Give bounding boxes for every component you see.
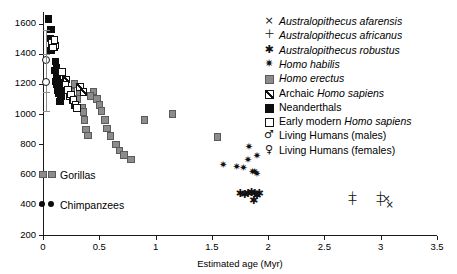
x-tick-label: 2.5: [306, 242, 342, 252]
legend-label-plain: Living Humans (males): [279, 129, 386, 141]
x-tick-label: 2: [250, 242, 286, 252]
legend-item-label: Early modern Homo sapiens: [279, 114, 411, 128]
data-point-homo-habilis: ✷: [216, 160, 230, 170]
legend-item-label: Australopithecus afarensis: [279, 14, 402, 28]
x-tick-label: 0: [25, 242, 61, 252]
y-tick-label: 1200: [3, 78, 36, 88]
data-point-robustus: ✱: [247, 195, 261, 206]
data-point-archaic-sapiens: [80, 88, 88, 96]
x-tick-label: 3: [363, 242, 399, 252]
hatched-square-icon: [265, 90, 274, 99]
open-square-icon: [262, 114, 276, 128]
x-tick-label: 3.5: [419, 242, 455, 252]
legend-label-taxon: Australopithecus afarensis: [279, 15, 402, 27]
data-point-homo-erectus: [101, 116, 109, 124]
legend-item-label: Homo erectus: [279, 71, 344, 85]
x-tick: [381, 236, 382, 240]
legend-label-plain: Living Humans (females): [279, 144, 395, 156]
x-tick-label: 1: [138, 242, 174, 252]
male-symbol-icon: ♂: [262, 128, 276, 142]
data-point-living-human: [42, 78, 50, 86]
legend-item-label: Living Humans (males): [279, 128, 386, 142]
gray-square-icon: [262, 71, 276, 85]
y-tick: [39, 24, 43, 25]
data-point-homo-erectus: [39, 171, 47, 179]
y-tick-label: 200: [3, 230, 36, 240]
asterisk-icon: ✱: [262, 43, 276, 57]
hatched-square-icon: [262, 86, 276, 100]
x-tick: [99, 236, 100, 240]
data-point-homo-erectus: [107, 132, 115, 140]
data-point-homo-habilis: ✷: [230, 162, 244, 172]
data-point-chimpanzee: [39, 201, 45, 207]
y-tick-label: 1000: [3, 109, 36, 119]
filled-star-square-icon: ✷: [262, 57, 276, 71]
x-axis-title: Estimated age (Myr): [150, 258, 330, 269]
y-tick: [39, 144, 43, 145]
data-point-homo-erectus: [127, 156, 135, 164]
cross-x-icon: ×: [262, 14, 276, 28]
data-point-homo-erectus: [141, 116, 149, 124]
black-square-icon: [262, 100, 276, 114]
x-tick: [268, 236, 269, 240]
plus-icon: ＋: [262, 28, 276, 42]
data-point-homo-erectus: [84, 132, 92, 140]
data-point-early-modern-sapiens: [58, 68, 66, 76]
data-point-africanus: ＋: [374, 197, 388, 208]
cranial-capacity-scatter-chart: 200400600800100012001400160000.511.522.5…: [0, 0, 457, 274]
error-bar-cap: [43, 54, 50, 55]
black-circle-icon: [48, 201, 54, 207]
error-bar-cap: [43, 111, 50, 112]
x-tick-label: 1.5: [194, 242, 230, 252]
x-tick: [437, 236, 438, 240]
legend-item-label: Living Humans (females): [279, 143, 395, 157]
legend-label-plain: Neanderthals: [279, 101, 341, 113]
asterisk-icon: ✱: [262, 43, 276, 57]
y-tick-label: 400: [3, 199, 36, 209]
inner-legend-label: Chimpanzees: [60, 199, 124, 211]
error-bar-cap: [43, 30, 50, 31]
data-point-neanderthal: [45, 15, 53, 23]
y-tick-label: 600: [3, 169, 36, 179]
y-tick: [39, 114, 43, 115]
legend-label-taxon: Homo habilis: [279, 58, 340, 70]
cross-x-icon: ×: [262, 14, 276, 28]
data-point-homo-erectus: [169, 110, 177, 118]
male-symbol-icon: ♂: [262, 128, 276, 142]
data-point-homo-erectus: [98, 107, 106, 115]
open-square-icon: [265, 118, 274, 127]
gray-square-icon: [48, 171, 56, 179]
legend-label-taxon: Homo erectus: [279, 72, 344, 84]
x-axis-line: [43, 235, 437, 236]
x-tick: [324, 236, 325, 240]
data-point-early-modern-sapiens: [73, 104, 81, 112]
data-point-africanus: ＋: [346, 196, 360, 207]
gray-square-icon: [265, 75, 274, 84]
y-tick-label: 800: [3, 139, 36, 149]
data-point-homo-erectus: [80, 108, 88, 116]
legend-label-taxon: Australopithecus africanus: [279, 29, 402, 41]
legend-item-label: Homo habilis: [279, 57, 340, 71]
legend-item-label: Neanderthals: [279, 100, 341, 114]
legend-label-taxon: Homo sapiens: [317, 87, 384, 99]
data-point-homo-habilis: ✷: [250, 169, 264, 179]
black-square-icon: [265, 104, 274, 113]
data-point-neanderthal: [56, 98, 64, 106]
filled-star-square-icon: ✷: [262, 57, 276, 71]
data-point-homo-erectus: [87, 92, 95, 100]
legend-label-plain: Early modern: [279, 115, 344, 127]
data-point-homo-erectus: [81, 116, 89, 124]
data-point-homo-erectus: [214, 133, 222, 141]
legend-label-taxon: Homo sapiens: [344, 115, 411, 127]
female-symbol-icon: ♀: [262, 143, 276, 157]
x-tick: [43, 236, 44, 240]
x-tick: [212, 236, 213, 240]
legend-label-taxon: Australopithecus robustus: [279, 44, 400, 56]
data-point-early-modern-sapiens: [51, 36, 59, 44]
legend-item-label: Archaic Homo sapiens: [279, 86, 384, 100]
inner-legend-label: Gorillas: [60, 169, 96, 181]
legend-item-label: Australopithecus africanus: [279, 28, 402, 42]
data-point-homo-erectus: [103, 125, 111, 133]
legend-item-label: Australopithecus robustus: [279, 43, 400, 57]
plus-icon: ＋: [262, 28, 276, 42]
